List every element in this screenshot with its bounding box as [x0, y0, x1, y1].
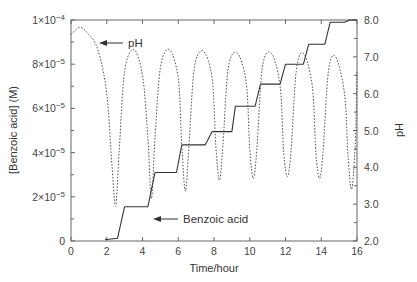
- annotation-benzoic-label: Benzoic acid: [183, 213, 248, 225]
- x-axis-title: Time/hour: [189, 262, 238, 274]
- y2-tick-label: 3.0: [364, 198, 379, 210]
- y-tick-label: 6×10−5: [32, 101, 65, 114]
- y-axis-ticks: 02×10−54×10−56×10−58×10−51×10−4: [32, 13, 75, 247]
- series-ph-line: [71, 27, 357, 206]
- x-tick-label: 16: [351, 245, 363, 257]
- annotation-ph: pH: [99, 37, 143, 49]
- y-tick-label: 2×10−5: [32, 190, 65, 203]
- annotation-benzoic-acid: Benzoic acid: [153, 213, 248, 225]
- arrow-head-icon: [99, 40, 107, 46]
- plot-frame: [71, 20, 357, 241]
- x-tick-label: 4: [140, 245, 146, 257]
- x-tick-label: 0: [68, 245, 74, 257]
- x-tick-label: 10: [244, 245, 256, 257]
- y-tick-label: 8×10−5: [32, 57, 65, 70]
- annotation-ph-label: pH: [128, 37, 143, 49]
- y-tick-label: 0: [59, 235, 65, 247]
- series-benzoic-acid-line: [105, 20, 357, 240]
- y-tick-label: 4×10−5: [32, 146, 65, 159]
- series-group: [71, 20, 357, 240]
- x-tick-label: 14: [315, 245, 327, 257]
- y2-tick-label: 8.0: [364, 14, 379, 26]
- y2-tick-label: 2.0: [364, 235, 379, 247]
- y2-tick-label: 7.0: [364, 51, 379, 63]
- chart: 0246810121416 02×10−54×10−56×10−58×10−51…: [0, 0, 417, 282]
- y2-tick-label: 4.0: [364, 161, 379, 173]
- x-tick-label: 8: [211, 245, 217, 257]
- y-tick-label: 1×10−4: [32, 13, 65, 26]
- y-axis-title: [Benzoic acid] (M): [7, 86, 19, 174]
- x-tick-label: 2: [104, 245, 110, 257]
- y2-tick-label: 5.0: [364, 125, 379, 137]
- y2-axis-title: pH: [393, 123, 405, 137]
- y2-tick-label: 6.0: [364, 88, 379, 100]
- arrow-head-icon: [153, 216, 161, 222]
- x-tick-label: 6: [175, 245, 181, 257]
- x-tick-label: 12: [280, 245, 292, 257]
